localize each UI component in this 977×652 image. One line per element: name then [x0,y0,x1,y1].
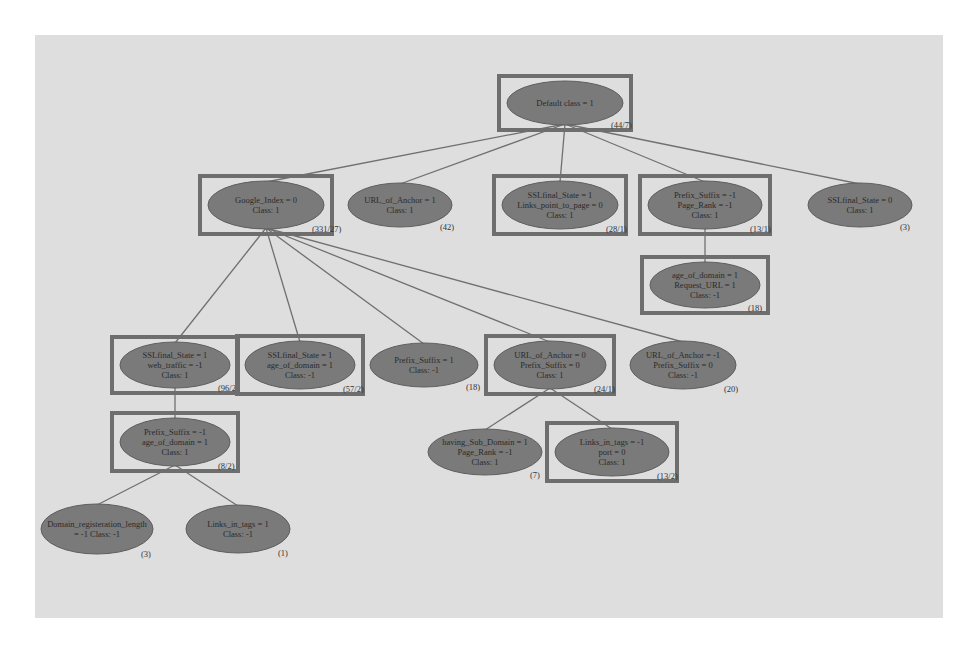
tree-node-links-in-tags-2[interactable]: Links_in_tags = 1Class: -1(1) [186,505,290,558]
node-label-line: Prefix_Suffix = 1 [394,355,453,365]
node-label-line: Class: -1 [285,370,315,380]
node-label-line: Class: 1 [471,457,498,467]
node-count: (8/2) [218,461,235,471]
tree-node-domain-registration[interactable]: Domain_registeration_length= -1 Class: -… [41,504,153,559]
tree-node-root[interactable]: Default class = 1(44/7) [499,76,632,130]
node-count: (18) [748,303,762,313]
node-label-line: Prefix_Suffix = -1 [144,427,206,437]
decision-tree-diagram: Default class = 1(44/7)Google_Index = 0C… [0,0,977,652]
node-label-line: URL_of_Anchor = -1 [646,350,720,360]
node-label-line: Class: 1 [161,370,188,380]
node-label-line: Class: 1 [386,205,413,215]
node-label-line: age_of_domain = 1 [672,270,738,280]
node-label-line: age_of_domain = 1 [142,437,208,447]
node-label-line: Prefix_Suffix = 0 [653,360,712,370]
node-label-line: Class: -1 [690,290,720,300]
node-label-line: SSLfinal_State = 1 [528,190,593,200]
tree-node-prefix-suffix-1[interactable]: Prefix_Suffix = 1Class: -1(18) [370,343,480,392]
node-count: (3) [141,549,151,559]
node-label-line: Class: 1 [846,205,873,215]
node-label-line: web_traffic = -1 [147,360,202,370]
node-label-line: = -1 Class: -1 [74,529,120,539]
node-label-line: Class: -1 [223,529,253,539]
edge-google-index-url-anchor-prefix-neg [266,228,683,342]
node-count: (331/27) [312,224,341,234]
tree-node-ssl-final-state-0[interactable]: SSLfinal_State = 0Class: 1(3) [808,183,912,232]
edge-google-index-ssl-sub-suffix [175,228,266,343]
node-label-line: Links_in_tags = 1 [207,519,268,529]
node-count: (44/7) [611,120,632,130]
node-count: (13/1) [750,224,771,234]
node-count: (42) [440,222,454,232]
tree-node-url-of-anchor-1[interactable]: URL_of_Anchor = 1Class: 1(42) [348,183,454,232]
node-label-line: Class: 1 [161,447,188,457]
node-label-line: Google_Index = 0 [235,195,297,205]
node-label-line: Domain_registeration_length [47,519,147,529]
tree-node-url-anchor-prefix-neg[interactable]: URL_of_Anchor = -1Prefix_Suffix = 0Class… [630,341,738,394]
tree-node-prefix-age-domain[interactable]: Prefix_Suffix = -1age_of_domain = 1Class… [112,413,238,471]
tree-node-prefix-suffix-page-rank[interactable]: Prefix_Suffix = -1Page_Rank = -1Class: 1… [640,176,771,234]
node-label-line: URL_of_Anchor = 0 [514,350,585,360]
edge-root-ssl-final-state-links [560,124,565,182]
node-count: (57/2) [343,384,364,394]
node-label-line: SSLfinal_State = 1 [268,350,333,360]
node-label-line: URL_of_Anchor = 1 [364,195,435,205]
node-count: (3) [900,222,910,232]
node-label-line: Class: 1 [252,205,279,215]
node-label-line: Class: -1 [409,365,439,375]
node-label-line: Page_Rank = -1 [458,447,513,457]
node-count: (20) [724,384,738,394]
node-count: (1) [278,548,288,558]
node-label-line: Class: 1 [691,210,718,220]
tree-node-ssl-final-state-links[interactable]: SSLfinal_State = 1Links_point_to_page = … [494,176,627,234]
node-count: (24/1) [594,384,615,394]
node-label-line: Class: 1 [536,370,563,380]
node-label-line: Page_Rank = -1 [678,200,733,210]
edge-root-prefix-suffix-page-rank [565,124,705,182]
tree-node-google-index[interactable]: Google_Index = 0Class: 1(331/27) [200,176,341,234]
tree-node-age-of-domain-request-url[interactable]: age_of_domain = 1Request_URL = 1Class: -… [642,257,768,313]
tree-node-links-in-tags-port[interactable]: Links_in_tags = -1port = 0Class: 1(13/2) [547,423,678,481]
node-label-line: Request_URL = 1 [674,280,736,290]
node-label-line: Links_point_to_page = 0 [517,200,603,210]
node-count: (13/2) [657,471,678,481]
node-label-line: Prefix_Suffix = 0 [520,360,579,370]
tree-node-ssl-age-domain[interactable]: SSLfinal_State = 1age_of_domain = 1Class… [237,336,364,394]
node-label-line: SSLfinal_State = 0 [828,195,893,205]
edge-google-index-ssl-age-domain [266,228,300,342]
node-label-line: Class: 1 [598,457,625,467]
node-label-line: Default class = 1 [536,98,593,108]
edge-root-google-index [266,124,565,182]
node-label-line: port = 0 [599,447,626,457]
node-label-line: SSLfinal_State = 1 [143,350,208,360]
node-count: (18) [466,382,480,392]
tree-node-ssl-sub-suffix[interactable]: SSLfinal_State = 1web_traffic = -1Class:… [112,337,239,393]
edge-google-index-url-anchor-prefix-0 [266,228,550,342]
node-label-line: having_Sub_Domain = 1 [442,437,528,447]
tree-node-url-anchor-prefix-0[interactable]: URL_of_Anchor = 0Prefix_Suffix = 0Class:… [486,336,615,394]
node-count: (28/1) [606,224,627,234]
edge-google-index-prefix-suffix-1 [266,228,424,344]
node-label-line: Links_in_tags = -1 [580,437,644,447]
tree-node-having-sub-domain[interactable]: having_Sub_Domain = 1Page_Rank = -1Class… [428,429,542,480]
node-label-line: Class: -1 [668,370,698,380]
node-label-line: Class: 1 [546,210,573,220]
node-count: (7) [530,470,540,480]
node-label-line: Prefix_Suffix = -1 [674,190,736,200]
node-label-line: age_of_domain = 1 [267,360,333,370]
